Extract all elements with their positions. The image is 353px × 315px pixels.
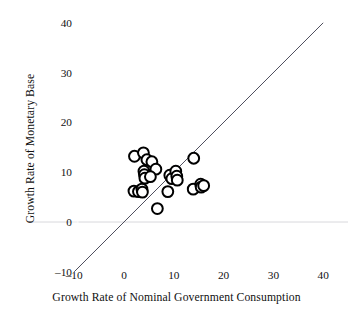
data-points bbox=[129, 147, 210, 214]
data-point bbox=[162, 186, 173, 197]
y-tick-label: 30 bbox=[40, 67, 72, 79]
x-tick-label: 0 bbox=[121, 269, 127, 281]
forty-five-degree-reference-line bbox=[74, 23, 323, 272]
data-point bbox=[188, 153, 199, 164]
x-tick-label: 40 bbox=[318, 269, 329, 281]
x-tick-label: 10 bbox=[168, 269, 179, 281]
x-tick-label: 20 bbox=[218, 269, 229, 281]
y-tick-label: 10 bbox=[40, 166, 72, 178]
x-tick-label: 30 bbox=[268, 269, 279, 281]
data-point bbox=[137, 187, 148, 198]
data-point bbox=[172, 175, 183, 186]
x-axis-title: Growth Rate of Nominal Government Consum… bbox=[0, 291, 353, 304]
y-tick-label: 0 bbox=[40, 216, 72, 228]
y-tick-label: 20 bbox=[40, 116, 72, 128]
scatter-plot-figure: –10010203040 –10010203040 Growth Rate of… bbox=[0, 0, 353, 315]
data-point bbox=[198, 180, 209, 191]
y-tick-label: 40 bbox=[40, 17, 72, 29]
data-point bbox=[145, 171, 156, 182]
y-tick-label: –10 bbox=[40, 266, 72, 278]
y-axis-title: Growth Rate of Monetary Base bbox=[24, 24, 37, 274]
data-point bbox=[152, 203, 163, 214]
